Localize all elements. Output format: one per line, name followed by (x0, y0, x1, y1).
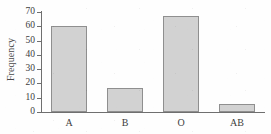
bar-o (163, 16, 199, 112)
y-axis-tick (37, 112, 41, 113)
y-axis-tick-label: 40 (0, 50, 35, 60)
x-axis-label-a: A (49, 117, 89, 128)
y-axis-tick-label: 50 (0, 36, 35, 46)
bar-a (51, 26, 87, 112)
bar-b (107, 88, 143, 112)
x-axis-label-ab: AB (217, 117, 257, 128)
y-axis-tick-label: 70 (0, 7, 35, 17)
y-axis-tick-label: 20 (0, 78, 35, 88)
x-axis-line (41, 112, 265, 113)
x-axis-label-o: O (161, 117, 201, 128)
y-axis-tick-label: 30 (0, 64, 35, 74)
bars-layer (41, 12, 265, 112)
bar-chart: Frequency 010203040506070 ABOAB (0, 0, 271, 134)
y-axis-tick-label: 60 (0, 21, 35, 31)
bar-ab (219, 104, 255, 112)
y-axis-tick-label: 10 (0, 93, 35, 103)
x-axis-label-b: B (105, 117, 145, 128)
y-axis-tick-label: 0 (0, 107, 35, 117)
